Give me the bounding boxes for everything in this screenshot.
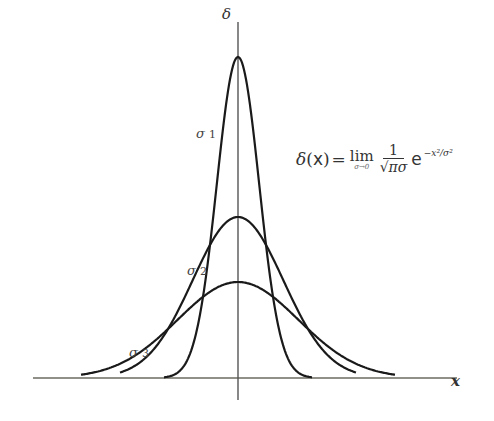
formula-exponent: −x²/σ² [424,148,453,158]
formula-limit: lim σ→0 [350,147,374,171]
sigma-2-label: σ2 [187,263,207,278]
formula-lhs: δ(x) [296,149,330,169]
formula-fraction: 1 √πσ [380,142,408,175]
lim-subscript: σ→0 [354,163,369,171]
delta-formula: δ(x) = lim σ→0 1 √πσ e −x²/σ² [296,142,453,175]
sigma-1-label: σ1 [196,126,216,141]
sigma-3-label: σ3 [129,345,149,360]
fraction-denominator: √πσ [380,159,408,175]
x-axis-label: x [451,372,460,390]
fraction-numerator: 1 [383,142,404,159]
y-axis-label: δ [222,5,231,23]
gaussian-delta-plot [0,0,494,421]
formula-exp-base: e [411,149,421,169]
formula-equals: = [332,149,346,169]
